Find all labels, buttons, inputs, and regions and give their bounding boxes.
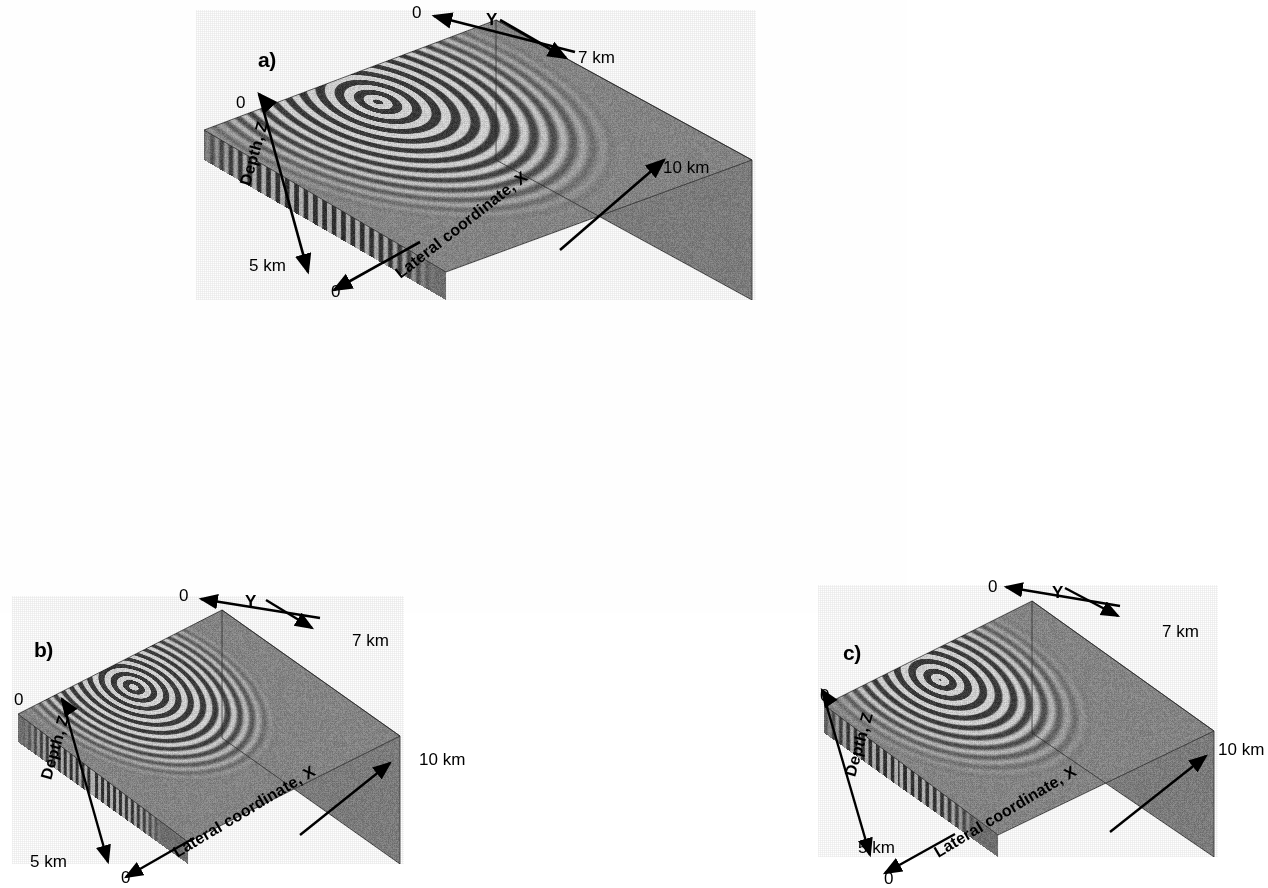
panel-b: b) 0 Y 7 km 0 Depth, Z 5 km Lateral coor…: [0, 290, 460, 613]
panel-b-y-max-tick: 7 km: [352, 631, 389, 651]
panel-c: c) 0 Y 7 km 0 Depth, Z 5 km Lateral coor…: [400, 285, 907, 613]
panel-c-y-min-tick: 0: [988, 577, 997, 597]
panel-c-y-axis-title: Y: [1052, 583, 1064, 603]
panel-a-depth-min-tick: 0: [236, 93, 245, 113]
panel-c-depth-max-tick: 5 km: [858, 838, 895, 858]
panel-b-y-axis-title: Y: [245, 592, 257, 612]
panel-a-y-max-tick: 7 km: [578, 48, 615, 68]
panel-a-y-axis-title: Y: [486, 10, 498, 30]
panel-b-label: b): [34, 638, 53, 662]
panel-c-lateral-min-tick: 0: [884, 869, 893, 888]
panel-a-lateral-min-tick: 0: [331, 282, 340, 302]
panel-b-depth-max-tick: 5 km: [30, 852, 67, 872]
panel-b-y-min-tick: 0: [179, 586, 188, 606]
panel-a-lateral-max-tick: 10 km: [663, 158, 709, 178]
panel-c-lateral-max-tick: 10 km: [1218, 740, 1264, 760]
panel-a-y-min-tick: 0: [412, 3, 421, 23]
panel-c-depth-min-tick: 0: [820, 686, 829, 706]
panel-c-label: c): [843, 641, 861, 665]
panel-b-depth-min-tick: 0: [14, 690, 23, 710]
panel-a-label: a): [258, 48, 276, 72]
panel-c-y-max-tick: 7 km: [1162, 622, 1199, 642]
panel-a-depth-max-tick: 5 km: [249, 256, 286, 276]
panel-b-lateral-max-tick: 10 km: [419, 750, 465, 770]
panel-c-wavefield-top: [818, 585, 1218, 857]
panel-a: a) 0 Y 7 km 0: [0, 0, 907, 300]
panel-b-lateral-min-tick: 0: [121, 868, 130, 888]
